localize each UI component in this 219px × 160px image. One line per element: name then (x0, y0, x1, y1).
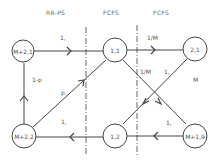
svg-text:M+2,1: M+2,1 (13, 48, 33, 55)
header-fcfs-2: FCFS (153, 9, 169, 16)
header-fcfs-1: FCFS (103, 9, 119, 16)
svg-text:M+1,9: M+1,9 (185, 133, 205, 140)
node-21: 2,1 (183, 37, 207, 61)
edge-m22-to-11 (33, 60, 106, 127)
edge-label-11-m19: 1/M (140, 68, 151, 75)
svg-text:2,1: 2,1 (190, 46, 200, 53)
node-m21: M+2,1 (12, 40, 34, 62)
edge-label-m19-12: 1, (166, 119, 172, 126)
edge-21-to-12 (123, 59, 187, 124)
svg-text:1,1: 1,1 (110, 47, 120, 54)
node-m22: M+2,2 (12, 124, 36, 148)
svg-text:1,2: 1,2 (110, 133, 120, 140)
edge-label-cross-right: 1, (164, 68, 170, 75)
arrow-icon (155, 98, 161, 104)
node-11: 1,1 (103, 38, 127, 62)
node-12: 1,2 (103, 124, 127, 148)
node-m19: M+1,9 (183, 124, 207, 148)
edge-label-m22-11: p (61, 89, 65, 97)
edge-label-21-12: M (193, 76, 198, 83)
svg-text:M+2,2: M+2,2 (14, 133, 34, 140)
edge-label-m21-11: 1, (60, 34, 66, 41)
queueing-network-diagram: RR-PS FCFS FCFS 1, 1/M 1/M 1, M 1-p p 1,… (0, 0, 219, 160)
edge-label-12-m22: 1, (61, 118, 67, 125)
edge-label-11-21: 1/M (147, 34, 158, 41)
edge-label-m22-m21: 1-p (32, 76, 42, 84)
header-rr-ps: RR-PS (46, 9, 65, 16)
